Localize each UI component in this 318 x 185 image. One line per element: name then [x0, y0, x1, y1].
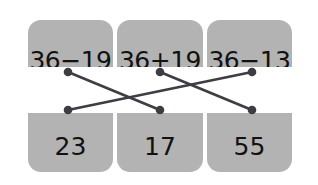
answer-left: 23: [28, 132, 113, 161]
answer-right: 55: [207, 132, 292, 161]
matching-activity: 36−19 23 36+19 17 36−13 55: [0, 0, 318, 185]
matching-band: [28, 67, 292, 113]
answer-middle: 17: [117, 132, 203, 161]
